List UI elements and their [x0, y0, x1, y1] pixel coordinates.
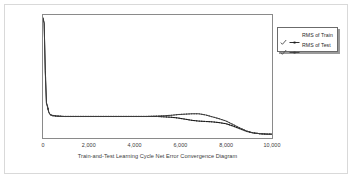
legend-line-sample-icon — [289, 32, 300, 39]
legend-item[interactable]: RMS of Test — [280, 40, 337, 50]
legend-item[interactable]: RMS of Train — [280, 30, 337, 40]
chart-figure: 0.050.10.150.20.250.3 02,0004,0006,0008,… — [4, 4, 348, 174]
legend-item-label: RMS of Test — [302, 42, 331, 49]
legend-line-sample-icon — [289, 42, 300, 49]
x-axis-tick-label: 4,000 — [118, 142, 152, 149]
x-axis-tick-label: 0 — [26, 142, 60, 149]
legend-item-label: RMS of Train — [302, 32, 333, 39]
x-axis-tick-label: 2,000 — [72, 142, 106, 149]
checkmark-icon[interactable] — [280, 32, 287, 39]
x-axis-tick-label: 6,000 — [163, 142, 197, 149]
checkmark-icon[interactable] — [280, 42, 287, 49]
chart-title: Train-and-Test Learning Cycle Net Error … — [42, 152, 273, 160]
x-axis-tick-label: 8,000 — [209, 142, 243, 149]
x-axis-tick-label: 10,000 — [255, 142, 289, 149]
chart-legend[interactable]: RMS of TrainRMS of Test — [277, 27, 338, 52]
